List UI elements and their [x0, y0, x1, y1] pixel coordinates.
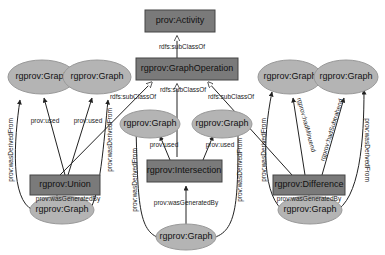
label-intersection-generated-by: prov:wasGeneratedBy [154, 199, 219, 207]
label-intersection-derived-1: prov:wasDerivedFrom [131, 148, 139, 212]
node-intersection-input-1[interactable]: rgprov:Graph [120, 110, 180, 138]
node-difference-input-2[interactable]: rgprov:Graph [314, 60, 378, 94]
node-graph-operation[interactable]: rgprov:GraphOperation [136, 58, 238, 80]
label-difference-derived-1: prov:wasDerivedFrom [260, 118, 268, 182]
svg-text:rgprov:Graph: rgprov:Graph [35, 204, 88, 214]
label-subclass-activity: rdfs:subClassOf [159, 43, 205, 50]
svg-text:rgprov:Intersection: rgprov:Intersection [147, 165, 222, 175]
node-difference[interactable]: rgprov:Difference [273, 175, 345, 195]
label-union-used-2: prov:used [74, 117, 103, 125]
label-subclass-intersection: rdfs:subClassOf [160, 86, 206, 93]
svg-text:rgprov:Graph: rgprov:Graph [283, 204, 336, 214]
subclass-edges [60, 36, 292, 175]
label-difference-minuend: rgprov:hadMinuend [295, 97, 317, 154]
svg-text:rgprov:GraphOperation: rgprov:GraphOperation [141, 63, 234, 73]
svg-text:rgprov:Graph: rgprov:Graph [263, 71, 316, 81]
svg-text:rgprov:Graph: rgprov:Graph [319, 71, 372, 81]
node-union[interactable]: rgprov:Union [30, 175, 100, 195]
node-intersection-input-2[interactable]: rgprov:Graph [192, 110, 252, 138]
label-union-generated-by: prov:wasGeneratedBy [36, 195, 101, 203]
node-intersection-output[interactable]: rgprov:Graph [156, 224, 216, 250]
label-intersection-used-2: prov:used [206, 141, 235, 149]
svg-text:rgprov:Graph: rgprov:Graph [15, 71, 68, 81]
svg-text:rgprov:Union: rgprov:Union [39, 179, 91, 189]
svg-text:rgprov:Graph: rgprov:Graph [70, 71, 123, 81]
node-difference-input-1[interactable]: rgprov:Graph [258, 60, 322, 94]
label-difference-generated-by: prov:wasGeneratedBy [277, 195, 342, 203]
svg-text:prov:Activity: prov:Activity [156, 15, 205, 25]
svg-text:rgprov:Difference: rgprov:Difference [275, 179, 344, 189]
node-union-input-2[interactable]: rgprov:Graph [63, 60, 131, 94]
svg-text:rgprov:Graph: rgprov:Graph [195, 118, 248, 128]
node-prov-activity[interactable]: prov:Activity [145, 10, 215, 32]
label-subclass-difference: rdfs:subClassOf [208, 93, 254, 100]
svg-text:rgprov:Graph: rgprov:Graph [123, 118, 176, 128]
label-subclass-union: rdfs:subClassOf [110, 93, 156, 100]
label-intersection-used-1: prov:used [150, 141, 179, 149]
label-difference-subtrahend: rgprov:hadSubtrahend [318, 97, 345, 162]
provenance-diagram: prov:Activity rgprov:GraphOperation rgpr… [0, 0, 385, 255]
label-intersection-derived-2: prov:wasDerivedFrom [236, 138, 244, 202]
node-intersection[interactable]: rgprov:Intersection [147, 160, 222, 182]
svg-text:rgprov:Graph: rgprov:Graph [159, 231, 212, 241]
label-union-used-1: prov:used [31, 117, 60, 125]
label-union-derived-2: prov:wasDerivedFrom [106, 108, 114, 172]
label-union-derived-1: prov:wasDerivedFrom [7, 118, 15, 182]
label-difference-derived-2: prov:wasDerivedFrom [363, 118, 371, 182]
